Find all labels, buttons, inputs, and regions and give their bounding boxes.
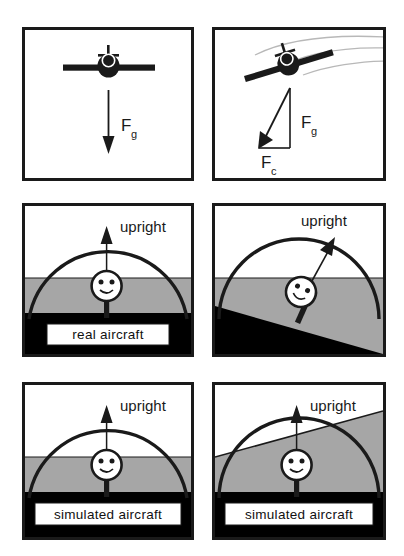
figure-root: F g	[0, 0, 404, 556]
upright-label: upright	[310, 397, 357, 414]
occupant-head	[92, 271, 122, 301]
force-label-fg-symbol: F	[301, 113, 311, 132]
panel-bottom-left: upright simulated aircraft	[22, 382, 194, 540]
caption-label: real aircraft	[72, 327, 143, 342]
force-vector-resultant-line	[264, 88, 290, 140]
caption-label: simulated aircraft	[54, 507, 162, 522]
caption-box: simulated aircraft	[225, 503, 373, 525]
panel-top-left: F g	[22, 27, 194, 181]
force-label-fc-subscript: c	[271, 165, 277, 177]
force-triangle	[258, 88, 290, 149]
upright-label: upright	[120, 218, 167, 235]
panel-bottom-right-graphic: upright simulated aircraft	[215, 385, 383, 537]
panel-bottom-left-graphic: upright simulated aircraft	[25, 385, 191, 537]
force-vector-resultant-arrowhead	[258, 131, 273, 149]
panel-middle-left-graphic: upright real aircraft	[25, 206, 191, 354]
eye-left-icon	[99, 280, 104, 285]
eye-left-icon	[289, 459, 294, 464]
occupant-head	[92, 450, 122, 480]
upright-label: upright	[301, 212, 348, 229]
force-label-fc-symbol: F	[261, 153, 271, 172]
panel-middle-right: upright	[212, 203, 386, 357]
aircraft-level-icon	[63, 45, 155, 78]
caption-box: real aircraft	[47, 324, 169, 345]
eye-right-icon	[110, 280, 115, 285]
eye-right-icon	[300, 459, 305, 464]
panel-bottom-right: upright simulated aircraft	[212, 382, 386, 540]
aircraft-banked-icon	[238, 30, 336, 89]
panel-top-right-graphic: F g F c	[215, 30, 383, 178]
force-vector-fg	[103, 90, 115, 154]
upright-label: upright	[120, 397, 167, 414]
panel-top-right: F g F c	[212, 27, 386, 181]
force-label-fg-subscript: g	[311, 125, 317, 137]
occupant-head	[282, 450, 312, 480]
eye-right-icon	[110, 459, 115, 464]
caption-box: simulated aircraft	[35, 503, 181, 525]
panel-middle-left: upright real aircraft	[22, 203, 194, 357]
force-label-fg-symbol: F	[121, 116, 131, 135]
panel-middle-right-graphic: upright	[215, 206, 383, 354]
caption-label: simulated aircraft	[245, 507, 353, 522]
panel-top-left-graphic: F g	[25, 30, 191, 178]
force-label-fg-subscript: g	[131, 128, 137, 140]
eye-left-icon	[99, 459, 104, 464]
